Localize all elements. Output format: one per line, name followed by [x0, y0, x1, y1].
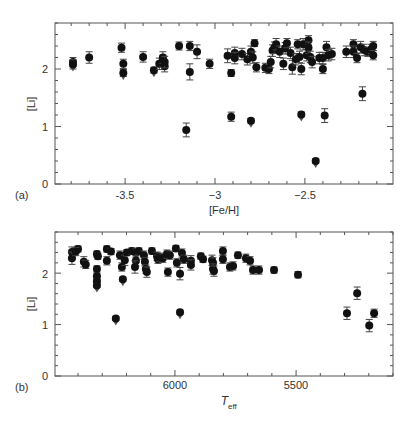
- data-point: [119, 69, 127, 80]
- data-point: [247, 117, 255, 128]
- data-point: [112, 314, 120, 325]
- panel-b-xtick-5500: 5500: [284, 379, 308, 391]
- data-point: [270, 266, 278, 274]
- data-point: [353, 287, 361, 299]
- data-point: [297, 110, 305, 121]
- data-point: [294, 271, 302, 279]
- data-point: [93, 265, 101, 273]
- panel-b-ytick-2: 2: [42, 268, 48, 280]
- panel-a-xtick-m3.5: -3.5: [116, 189, 135, 201]
- panel-b-label: (b): [15, 381, 28, 393]
- panel-a-data-points: [69, 36, 377, 168]
- panel-b-data-points: [68, 244, 378, 331]
- panel-b-ytick-0: 0: [42, 370, 48, 382]
- panel-b-xlabel-sub: eff: [228, 402, 238, 411]
- data-point: [186, 64, 194, 80]
- data-point: [85, 52, 93, 64]
- panel-a-xlabel: [Fe/H]: [209, 204, 239, 216]
- data-point: [119, 59, 127, 68]
- figure: 0 1 2 -3.5 −3 −2.5 [Fe/H] [Li] (a) 0 1 2…: [0, 0, 412, 425]
- data-point: [219, 247, 227, 255]
- data-point: [193, 45, 201, 59]
- data-point: [227, 112, 235, 121]
- data-point: [118, 43, 126, 52]
- data-point: [94, 252, 102, 260]
- data-point: [255, 266, 263, 274]
- data-point: [176, 308, 184, 319]
- panel-b-xtick-6000: 6000: [163, 379, 187, 391]
- data-point: [176, 267, 184, 279]
- data-point: [173, 259, 181, 267]
- panel-b-ylabel: [Li]: [25, 297, 37, 312]
- data-point: [139, 52, 147, 62]
- data-point: [150, 66, 158, 77]
- panel-b-ytick-1: 1: [42, 319, 48, 331]
- data-point: [312, 157, 320, 168]
- panel-a-ticks: [55, 23, 393, 184]
- data-point: [103, 257, 111, 265]
- panel-a-ytick-2: 2: [42, 63, 48, 75]
- data-point: [224, 49, 232, 63]
- data-point: [252, 63, 260, 72]
- data-point: [358, 87, 366, 101]
- data-point: [370, 309, 378, 317]
- data-point: [182, 123, 190, 137]
- data-point: [227, 69, 235, 77]
- data-point: [279, 58, 287, 69]
- panel-a-label: (a): [15, 189, 28, 201]
- data-point: [206, 59, 214, 68]
- data-point: [365, 319, 373, 331]
- panel-a-xtick-m2.5: −2.5: [294, 189, 316, 201]
- panel-a-frame: [55, 23, 393, 184]
- data-point: [321, 109, 329, 123]
- data-point: [251, 39, 259, 47]
- data-point: [186, 41, 194, 50]
- panel-a-xtick-m3: −3: [209, 189, 222, 201]
- data-point: [119, 275, 127, 286]
- data-point: [319, 64, 327, 73]
- data-point: [342, 46, 350, 58]
- panel-a-ylabel: [Li]: [25, 97, 37, 112]
- panel-a-ytick-0: 0: [42, 178, 48, 190]
- data-point: [343, 307, 351, 319]
- data-point: [164, 268, 172, 276]
- panel-a-ytick-1: 1: [42, 121, 48, 133]
- data-point: [93, 281, 101, 292]
- data-point: [107, 248, 115, 256]
- panel-a-feh-vs-li: 0 1 2 -3.5 −3 −2.5 [Fe/H] [Li] (a): [15, 23, 393, 216]
- data-point: [219, 255, 227, 263]
- data-point: [199, 255, 207, 263]
- data-point: [175, 42, 183, 50]
- data-point: [234, 251, 242, 259]
- panel-b-teff-vs-li: 0 1 2 6000 5500 T eff [Li] (b): [15, 232, 393, 411]
